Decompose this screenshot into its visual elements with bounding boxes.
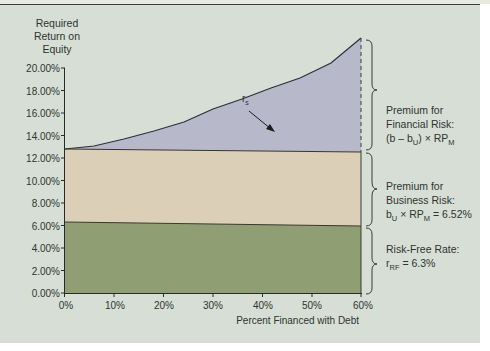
risk-free-brace [366, 228, 377, 294]
svg-text:(b – bU) × RPM: (b – bU) × RPM [386, 132, 455, 147]
svg-text:10.00%: 10.00% [26, 176, 60, 187]
svg-text:2.00%: 2.00% [32, 266, 60, 277]
svg-text:Risk-Free Rate:: Risk-Free Rate: [386, 243, 460, 255]
svg-text:Financial Risk:: Financial Risk: [386, 118, 454, 130]
risk-free-area [65, 222, 361, 293]
svg-text:0.00%: 0.00% [32, 288, 60, 299]
svg-text:bU × RPM = 6.52%: bU × RPM = 6.52% [386, 208, 472, 223]
svg-text:20%: 20% [154, 300, 174, 311]
y-tick-labels: 20.00% 18.00% 16.00% 14.00% 12.00% 10.00… [26, 63, 60, 299]
svg-text:14.00%: 14.00% [26, 131, 60, 142]
svg-text:10%: 10% [105, 300, 125, 311]
svg-text:Premium for: Premium for [386, 104, 444, 116]
x-axis-title: Percent Financed with Debt [236, 315, 359, 326]
svg-text:Premium for: Premium for [386, 180, 444, 192]
business-risk-area [65, 149, 361, 226]
svg-text:12.00%: 12.00% [26, 153, 60, 164]
svg-text:50%: 50% [302, 300, 322, 311]
chart-svg: Required Return on Equity rs 20.00% 18.0… [0, 0, 490, 351]
svg-text:20.00%: 20.00% [26, 63, 60, 74]
financial-risk-area [65, 38, 361, 152]
y-axis-title-line2: Return on [34, 30, 80, 42]
svg-text:16.00%: 16.00% [26, 108, 60, 119]
x-tick-labels: 0% 10% 20% 30% 40% 50% 60% [59, 300, 373, 311]
svg-text:rRF = 6.3%: rRF = 6.3% [386, 257, 435, 272]
business-risk-annotation: Premium for Business Risk: bU × RPM = 6.… [386, 180, 472, 223]
financial-risk-brace [366, 40, 377, 150]
svg-text:18.00%: 18.00% [26, 86, 60, 97]
svg-text:Business Risk:: Business Risk: [386, 194, 455, 206]
svg-text:8.00%: 8.00% [32, 198, 60, 209]
svg-text:40%: 40% [253, 300, 273, 311]
y-axis-title-line3: Equity [42, 43, 72, 55]
y-axis-title-line1: Required [36, 17, 79, 29]
risk-free-annotation: Risk-Free Rate: rRF = 6.3% [386, 243, 460, 272]
svg-text:30%: 30% [203, 300, 223, 311]
financial-risk-annotation: Premium for Financial Risk: (b – bU) × R… [386, 104, 455, 147]
svg-text:60%: 60% [353, 300, 373, 311]
svg-text:4.00%: 4.00% [32, 243, 60, 254]
svg-text:6.00%: 6.00% [32, 221, 60, 232]
svg-text:0%: 0% [59, 300, 74, 311]
business-risk-brace [366, 153, 377, 226]
